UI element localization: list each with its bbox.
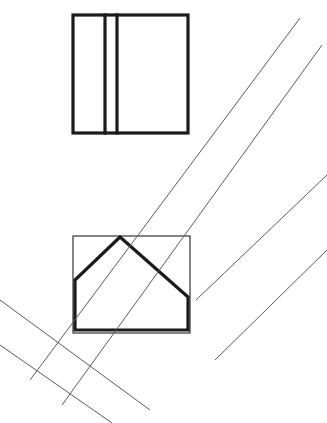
band-right-line-a: [196, 175, 327, 300]
bottom-pentagon: [75, 237, 188, 330]
geometric-line-drawing: [0, 0, 327, 423]
band-upper-line-b: [62, 45, 322, 405]
band-lower-line-b: [0, 345, 112, 423]
figure-canvas: [0, 0, 327, 423]
band-upper-line-a: [30, 18, 300, 380]
top-divided-square: [73, 15, 188, 133]
